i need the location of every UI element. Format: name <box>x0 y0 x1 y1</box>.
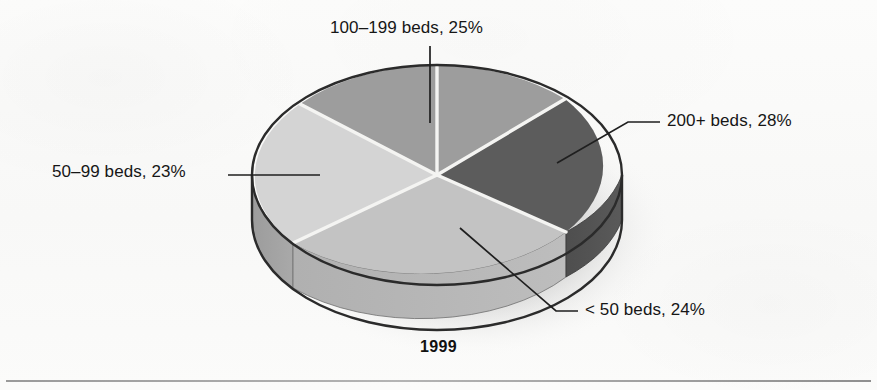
footer-divider <box>6 380 871 382</box>
figure-caption-year: 1999 <box>0 338 877 356</box>
pie-chart-3d <box>0 0 877 390</box>
pie-label-50-99: 50–99 beds, 23% <box>52 162 186 182</box>
figure-container: 100–199 beds, 25% 200+ beds, 28% 50–99 b… <box>0 0 877 390</box>
pie-label-100-199: 100–199 beds, 25% <box>330 18 483 38</box>
pie-label-under-50: < 50 beds, 24% <box>585 300 705 320</box>
pie-label-200-plus: 200+ beds, 28% <box>667 111 792 131</box>
